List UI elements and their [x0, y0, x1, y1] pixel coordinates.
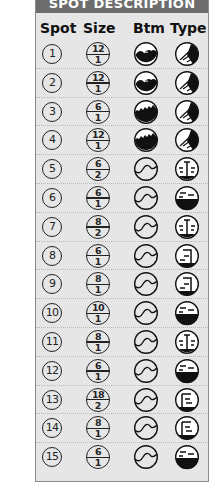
size-top: 12 — [87, 43, 109, 54]
panel-title: SPOT DESCRIPTION — [36, 0, 208, 13]
header-type: Type — [170, 17, 207, 39]
type-right-wall-icon — [174, 243, 200, 269]
spot-number-circle: 2 — [42, 73, 62, 93]
size-fraction: 61 — [86, 358, 112, 384]
size-bottom: 2 — [87, 227, 109, 238]
bottom-sand-wave-icon — [133, 358, 159, 384]
bottom-rock-jagged-icon — [133, 99, 159, 125]
size-bottom: 1 — [87, 457, 109, 468]
spot-number-circle: 14 — [42, 418, 62, 438]
size-top: 12 — [87, 72, 109, 83]
spot-table: 1121212136141215626617828619811010111811… — [36, 40, 208, 472]
type-diagonal-ledge-icon — [174, 70, 200, 96]
size-top: 8 — [87, 216, 109, 227]
size-bottom: 1 — [87, 284, 109, 295]
spot-row: 10101 — [36, 299, 208, 328]
size-top: 6 — [87, 446, 109, 457]
bottom-sand-wave-icon — [133, 156, 159, 182]
type-left-wall-icon — [174, 387, 200, 413]
bottom-sand-wave-icon — [133, 387, 159, 413]
size-circle-icon: 81 — [86, 272, 110, 296]
size-fraction: 121 — [86, 70, 112, 96]
size-fraction: 61 — [86, 444, 112, 470]
bottom-sand-wave-icon — [133, 214, 159, 240]
size-fraction: 62 — [86, 156, 112, 182]
size-bottom: 1 — [87, 256, 109, 267]
spot-number: 12 — [42, 358, 68, 384]
spot-number: 15 — [42, 444, 68, 470]
size-bottom: 1 — [87, 342, 109, 353]
size-fraction: 61 — [86, 185, 112, 211]
spot-number-circle: 3 — [42, 102, 62, 122]
size-circle-icon: 121 — [86, 128, 110, 152]
size-bottom: 1 — [87, 313, 109, 324]
size-top: 6 — [87, 360, 109, 371]
spot-row: 861 — [36, 242, 208, 271]
bottom-sand-wave-icon — [133, 271, 159, 297]
size-circle-icon: 61 — [86, 100, 110, 124]
bottom-sand-wave-icon — [133, 444, 159, 470]
bottom-rock-hump-icon — [133, 41, 159, 67]
type-diagonal-ledge-icon — [174, 127, 200, 153]
size-fraction: 81 — [86, 329, 112, 355]
header-spot: Spot — [40, 17, 76, 39]
spot-row: 661 — [36, 184, 208, 213]
spot-number-circle: 8 — [42, 246, 62, 266]
size-bottom: 2 — [87, 169, 109, 180]
header-size: Size — [83, 17, 116, 39]
spot-number-circle: 7 — [42, 217, 62, 237]
size-fraction: 81 — [86, 271, 112, 297]
type-center-pillar-icon — [174, 214, 200, 240]
type-center-pillar-icon — [174, 329, 200, 355]
spot-number-circle: 9 — [42, 274, 62, 294]
spot-number-circle: 12 — [42, 361, 62, 381]
size-fraction: 182 — [86, 387, 112, 413]
spot-row: 13182 — [36, 386, 208, 415]
spot-row: 361 — [36, 98, 208, 127]
size-bottom: 1 — [87, 428, 109, 439]
spot-row: 4121 — [36, 126, 208, 155]
size-bottom: 1 — [87, 198, 109, 209]
spot-number-circle: 4 — [42, 130, 62, 150]
bottom-rock-hump-icon — [133, 70, 159, 96]
size-circle-icon: 101 — [86, 301, 110, 325]
type-left-wall-icon — [174, 415, 200, 441]
spot-number-circle: 6 — [42, 188, 62, 208]
spot-number: 10 — [42, 300, 68, 326]
size-circle-icon: 62 — [86, 157, 110, 181]
spot-number: 4 — [42, 127, 68, 153]
size-circle-icon: 121 — [86, 71, 110, 95]
spot-number-circle: 5 — [42, 159, 62, 179]
spot-row: 782 — [36, 213, 208, 242]
header-btm: Btm — [133, 17, 165, 39]
size-circle-icon: 61 — [86, 186, 110, 210]
bottom-sand-wave-icon — [133, 300, 159, 326]
size-top: 6 — [87, 158, 109, 169]
spot-number: 3 — [42, 99, 68, 125]
size-fraction: 81 — [86, 415, 112, 441]
spot-number: 5 — [42, 156, 68, 182]
size-circle-icon: 81 — [86, 416, 110, 440]
type-half-filled-icon — [174, 444, 200, 470]
type-half-filled-icon — [174, 185, 200, 211]
size-fraction: 61 — [86, 99, 112, 125]
size-top: 8 — [87, 331, 109, 342]
size-circle-icon: 61 — [86, 359, 110, 383]
size-circle-icon: 121 — [86, 42, 110, 66]
bottom-sand-wave-icon — [133, 415, 159, 441]
size-bottom: 1 — [87, 54, 109, 65]
size-top: 8 — [87, 273, 109, 284]
bottom-sand-wave-icon — [133, 243, 159, 269]
spot-row: 981 — [36, 270, 208, 299]
spot-number: 9 — [42, 271, 68, 297]
type-diagonal-ledge-icon — [174, 41, 200, 67]
size-bottom: 1 — [87, 112, 109, 123]
spot-row: 1561 — [36, 443, 208, 472]
size-fraction: 121 — [86, 41, 112, 67]
spot-row: 1121 — [36, 40, 208, 69]
size-top: 6 — [87, 245, 109, 256]
spot-row: 1261 — [36, 357, 208, 386]
spot-number: 7 — [42, 214, 68, 240]
spot-description-panel: SPOT DESCRIPTION Spot Size Btm Type 1121… — [35, 0, 209, 482]
spot-number-circle: 10 — [42, 303, 62, 323]
